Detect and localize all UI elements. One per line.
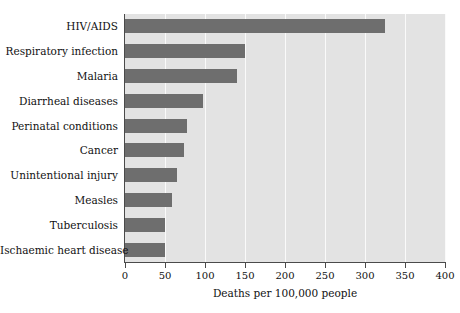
x-tick-mark [405,263,406,268]
x-tick-label: 200 [268,270,302,282]
x-tick-label: 350 [388,270,422,282]
bar [125,19,385,33]
bar [125,243,165,257]
x-tick-mark [325,263,326,268]
bar [125,44,245,58]
gridline-400 [445,14,446,262]
gridline-200 [285,14,286,262]
category-label: Respiratory infection [0,45,118,57]
category-label: Perinatal conditions [0,120,118,132]
category-label: Measles [0,194,118,206]
category-axis-labels: HIV/AIDSRespiratory infectionMalariaDiar… [0,14,118,262]
bar-chart: HIV/AIDSRespiratory infectionMalariaDiar… [0,0,460,313]
bar [125,69,237,83]
category-label: Cancer [0,144,118,156]
x-tick-mark [365,263,366,268]
bar [125,94,203,108]
gridline-150 [245,14,246,262]
category-label: Unintentional injury [0,169,118,181]
x-tick-label: 50 [148,270,182,282]
x-tick-mark [445,263,446,268]
category-label: Diarrheal diseases [0,95,118,107]
x-tick-label: 0 [108,270,142,282]
bar [125,119,187,133]
bar [125,143,184,157]
bar [125,168,177,182]
x-tick-mark [285,263,286,268]
x-tick-mark [165,263,166,268]
bar [125,218,165,232]
category-label: Tuberculosis [0,219,118,231]
gridline-250 [325,14,326,262]
x-tick-label: 100 [188,270,222,282]
x-tick-label: 250 [308,270,342,282]
x-tick-mark [125,263,126,268]
x-tick-mark [245,263,246,268]
category-label: Ischaemic heart disease [0,244,118,256]
gridline-300 [365,14,366,262]
x-tick-label: 150 [228,270,262,282]
x-tick-label: 300 [348,270,382,282]
x-tick-mark [205,263,206,268]
x-axis-title: Deaths per 100,000 people [125,287,445,300]
y-axis-line [124,14,125,263]
category-label: Malaria [0,70,118,82]
gridline-350 [405,14,406,262]
x-tick-label: 400 [428,270,460,282]
bar [125,193,172,207]
plot-area [125,14,445,262]
category-label: HIV/AIDS [0,20,118,32]
